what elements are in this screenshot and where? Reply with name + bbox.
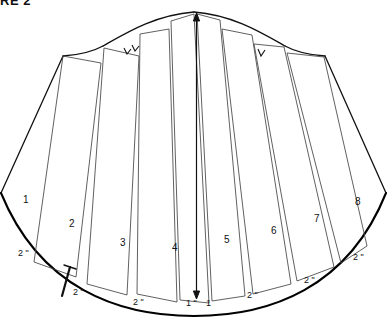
gap-label-2-3: 2 " — [133, 298, 144, 307]
center-grainline-arrow — [193, 13, 199, 299]
gap-label-7-8: 2 " — [353, 253, 364, 262]
panel-number-6: 6 — [271, 226, 277, 236]
panel-3-shape — [137, 29, 177, 302]
panel-number-5: 5 — [224, 235, 230, 245]
gap-label-left-outer: 2 " — [18, 249, 29, 258]
panel-number-1: 1 — [23, 195, 29, 205]
gap-label-6-7: 2 " — [304, 276, 315, 285]
panel-8-shape — [287, 53, 367, 263]
gap-label-5-6: 2 " — [247, 291, 258, 300]
upper-contour — [1, 12, 386, 193]
panel-number-7: 7 — [314, 214, 320, 224]
panel-number-8: 8 — [355, 197, 361, 207]
panel-number-4: 4 — [172, 243, 178, 253]
panel-5-shape — [197, 14, 245, 301]
double-notch-icon — [124, 45, 139, 54]
gap-label-center-left: 1 " — [186, 299, 197, 308]
panel-2-shape — [87, 48, 139, 295]
pattern-drawing — [0, 0, 387, 320]
gap-label-1-2: 2 " — [73, 288, 84, 297]
panel-4-shape — [171, 14, 209, 303]
panel-number-3: 3 — [120, 238, 126, 248]
panel-number-2: 2 — [69, 219, 75, 229]
single-notch-icon — [258, 49, 265, 56]
panel-1-shape — [34, 56, 101, 277]
gap-label-center-right: 1 — [206, 299, 211, 308]
panel-6-shape — [222, 29, 291, 294]
diagram-canvas: RE 2 — [0, 0, 387, 320]
